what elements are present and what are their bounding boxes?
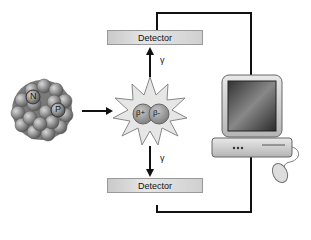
nucleus: [11, 79, 73, 141]
detector-top-label: Detector: [138, 33, 172, 43]
proton-label: P: [55, 104, 61, 114]
beta-minus-label: β-: [153, 108, 160, 117]
detector-bottom: Detector: [107, 178, 203, 193]
gamma-label-bottom: γ: [160, 153, 165, 163]
neutron-label: N: [30, 91, 37, 101]
detector-top: Detector: [107, 30, 203, 45]
beta-plus-label: β+: [136, 108, 145, 117]
computer-icon: [212, 75, 299, 185]
detector-bottom-label: Detector: [138, 181, 172, 191]
gamma-label-top: γ: [160, 55, 165, 65]
